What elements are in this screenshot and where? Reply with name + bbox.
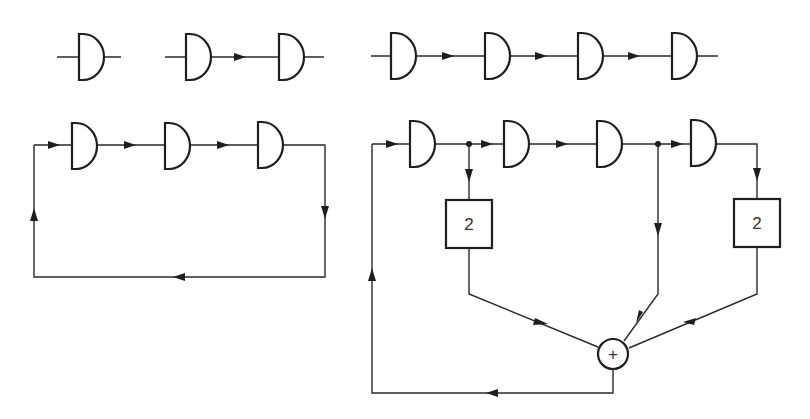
- tap-wire: [469, 248, 598, 347]
- arrow-up-icon: [30, 208, 38, 221]
- delay-gate: [691, 120, 716, 166]
- delay-gate: [165, 123, 190, 169]
- arrow-right-icon: [442, 52, 454, 60]
- delay-gate: [79, 34, 104, 80]
- arrow-down-icon: [654, 223, 662, 236]
- arrow-right-icon: [556, 140, 568, 148]
- delay-chain-four: [371, 33, 718, 79]
- delay-gate: [504, 121, 529, 167]
- arrow-right-icon: [481, 140, 493, 148]
- arrow-right-icon: [535, 52, 547, 60]
- delay-gate: [578, 33, 603, 79]
- arrow-down-icon: [753, 168, 761, 181]
- arrow-left-icon: [173, 273, 185, 281]
- delay-gate: [391, 33, 416, 79]
- cyclic-register: [30, 122, 329, 281]
- tap-wire: [629, 247, 757, 348]
- diagram-canvas: 2 2 +: [0, 0, 810, 419]
- delay-gate: [186, 34, 211, 80]
- arrow-right-icon: [124, 141, 136, 149]
- single-delay-element: [57, 34, 121, 80]
- adder-symbol: +: [608, 345, 618, 364]
- delay-gate: [485, 33, 510, 79]
- arrow-right-icon: [628, 52, 640, 60]
- feedback-loop-wire: [372, 144, 613, 393]
- arrow-right-icon: [217, 141, 229, 149]
- delay-gate: [72, 123, 97, 169]
- delay-chain-two: [165, 34, 324, 80]
- arrow-down-icon: [321, 206, 329, 219]
- multiplier-label: 2: [464, 215, 473, 234]
- delay-gate: [672, 33, 697, 79]
- feedback-register: 2 2 +: [368, 120, 780, 397]
- arrow-down-icon: [465, 169, 473, 182]
- delay-gate: [597, 121, 622, 167]
- multiplier-label: 2: [752, 214, 761, 233]
- arrow-left-icon: [486, 389, 498, 397]
- delay-gate: [410, 121, 435, 167]
- arrow-up-icon: [368, 268, 376, 281]
- arrow-right-icon: [386, 140, 398, 148]
- arrow-diagonal-icon: [533, 318, 548, 325]
- arrow-right-icon: [48, 141, 60, 149]
- arrow-right-icon: [234, 53, 246, 61]
- arrow-right-icon: [671, 140, 683, 148]
- delay-gate: [279, 34, 304, 80]
- delay-gate: [258, 122, 283, 168]
